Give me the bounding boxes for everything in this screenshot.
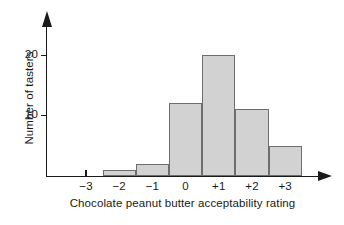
- bar-series: [0, 0, 344, 225]
- histogram-figure: 1020 −3−2−10+1+2+3 Number of tasters Cho…: [0, 0, 344, 225]
- bar-+3: [269, 146, 302, 176]
- bar--2: [103, 170, 136, 176]
- y-axis-title: Number of tasters: [23, 28, 35, 168]
- bar-+2: [235, 109, 268, 175]
- x-axis-title: Chocolate peanut butter acceptability ra…: [40, 197, 325, 209]
- bar-+1: [202, 55, 235, 175]
- bar--1: [136, 164, 169, 176]
- bar-0: [169, 103, 202, 175]
- plot-area: 1020 −3−2−10+1+2+3 Number of tasters Cho…: [0, 0, 344, 225]
